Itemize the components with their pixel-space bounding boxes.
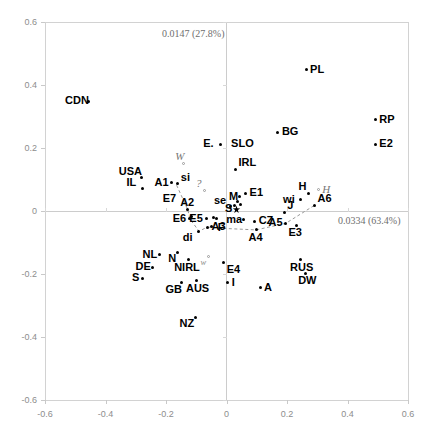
x-zero-axis-tick (408, 208, 409, 212)
data-point-marker (374, 143, 377, 146)
data-point-marker (170, 181, 173, 184)
data-point-label: PL (310, 64, 324, 75)
data-point-marker (197, 230, 200, 233)
data-point-marker (239, 203, 242, 206)
data-point-marker (244, 192, 247, 195)
data-point-marker (219, 143, 222, 146)
x-tick-mark (348, 400, 349, 404)
data-point-label: GB (166, 284, 183, 295)
data-point-label: J (287, 200, 293, 211)
x-axis-caption: 0.0334 (63.4%) (338, 215, 401, 226)
data-point-marker (276, 131, 279, 134)
data-point-marker (234, 168, 237, 171)
data-point-marker (158, 253, 161, 256)
y-tick-label: -0.6 (0, 395, 37, 405)
data-point-marker (238, 195, 241, 198)
y-zero-axis-tick (223, 337, 227, 338)
data-point-label: E6 (173, 213, 186, 224)
data-point-label: F (218, 222, 225, 233)
data-point-label: A2 (180, 197, 194, 208)
x-tick-mark (408, 400, 409, 404)
data-point-marker (313, 204, 316, 207)
data-point-marker (151, 266, 154, 269)
data-point-label: H (299, 181, 307, 192)
data-point-marker (210, 225, 213, 228)
data-point-label: NIRL (174, 262, 200, 273)
y-zero-axis-tick (223, 400, 227, 401)
x-tick-label: 0.2 (267, 409, 307, 419)
data-point-label: IRL (239, 157, 257, 168)
data-point-label: IL (127, 177, 137, 188)
x-zero-axis-tick (348, 208, 349, 212)
data-point-label: A5 (269, 217, 283, 228)
y-zero-axis-tick (223, 22, 227, 23)
data-point-marker (242, 218, 245, 221)
y-tick-mark (41, 274, 45, 275)
data-point-label: ma (226, 214, 242, 225)
data-point-label: E2 (379, 138, 392, 149)
data-point-marker (284, 222, 287, 225)
y-tick-label: 0.6 (0, 17, 37, 27)
x-tick-label: -0.2 (146, 409, 186, 419)
y-zero-axis-tick (223, 85, 227, 86)
data-point-label: w (200, 258, 206, 267)
x-tick-mark (166, 400, 167, 404)
data-point-marker (259, 286, 262, 289)
data-point-marker (307, 192, 310, 195)
data-point-label: di (183, 232, 193, 243)
x-zero-axis-tick (166, 208, 167, 212)
y-zero-axis-tick (223, 148, 227, 149)
data-point-label: SLO (231, 138, 254, 149)
data-point-label: I (232, 277, 235, 288)
data-point-label: ? (196, 178, 202, 189)
y-tick-mark (41, 85, 45, 86)
y-tick-label: -0.4 (0, 332, 37, 342)
data-point-label: si (181, 172, 190, 183)
data-point-label: AUS (186, 283, 209, 294)
y-tick-label: 0 (0, 206, 37, 216)
x-tick-label: 0.4 (328, 409, 368, 419)
data-point-marker (194, 316, 197, 319)
data-point-label: NL (142, 249, 157, 260)
x-tick-mark (45, 400, 46, 404)
data-point-label: A1 (155, 177, 169, 188)
y-tick-label: -0.2 (0, 269, 37, 279)
data-point-marker (233, 204, 236, 207)
x-tick-label: -0.4 (86, 409, 126, 419)
data-point-marker (176, 251, 179, 254)
y-axis-caption: 0.0147 (27.8%) (162, 28, 225, 39)
y-tick-mark (41, 400, 45, 401)
data-point-label: A4 (249, 232, 263, 243)
x-tick-label: 0 (207, 409, 247, 419)
data-point-open-marker (317, 188, 320, 191)
data-point-label: A6 (318, 193, 332, 204)
y-tick-mark (41, 337, 45, 338)
data-point-label: A (264, 282, 272, 293)
data-point-marker (253, 220, 256, 223)
data-point-label: E. (203, 138, 213, 149)
data-point-marker (226, 281, 229, 284)
data-point-label: E3 (288, 227, 301, 238)
x-zero-axis-tick (45, 208, 46, 212)
data-point-label: NZ (179, 318, 194, 329)
x-zero-axis-tick (106, 208, 107, 212)
data-point-marker (141, 277, 144, 280)
data-point-label: W (175, 151, 184, 162)
data-point-label: E1 (250, 187, 263, 198)
x-tick-mark (287, 400, 288, 404)
x-tick-mark (106, 400, 107, 404)
data-point-open-marker (203, 189, 206, 192)
data-point-label: S (132, 272, 139, 283)
scatter-plot-figure: -0.6-0.4-0.200.20.40.60.60.40.20-0.2-0.4… (0, 0, 430, 440)
data-point-marker (283, 211, 286, 214)
x-tick-label: 0.6 (388, 409, 428, 419)
data-point-marker (205, 217, 208, 220)
y-tick-mark (41, 22, 45, 23)
x-tick-label: -0.6 (25, 409, 65, 419)
y-tick-label: 0.2 (0, 143, 37, 153)
data-point-marker (141, 187, 144, 190)
data-point-marker (305, 68, 308, 71)
data-point-label: BG (282, 126, 299, 137)
data-point-label: RP (379, 114, 394, 125)
data-point-marker (206, 226, 209, 229)
